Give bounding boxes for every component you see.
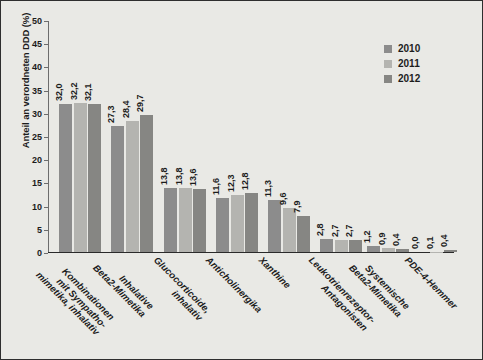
legend-label: 2011 xyxy=(398,59,420,69)
bar[interactable] xyxy=(396,249,409,252)
bar-group: 27,328,429,7 xyxy=(111,21,153,252)
bar[interactable] xyxy=(367,246,380,252)
y-tick-label: 35 xyxy=(14,86,42,95)
bar-value-label: 13,6 xyxy=(189,169,198,187)
bar-value-label: 0,9 xyxy=(377,232,386,245)
bar[interactable] xyxy=(140,115,153,252)
bar-value-label: 0,1 xyxy=(425,236,434,249)
x-axis-label-line: Xanthine xyxy=(257,255,293,291)
bar-value-label: 27,3 xyxy=(107,105,116,123)
chart-legend: 201020112012 xyxy=(384,41,454,86)
bar[interactable] xyxy=(59,104,72,252)
bar-value-label: 2,8 xyxy=(316,224,325,237)
bar-group: 32,032,232,1 xyxy=(59,21,101,252)
x-axis-labels: Kombinationenmit Sympatho-mimetika, inha… xyxy=(48,255,468,360)
bar[interactable] xyxy=(335,240,348,252)
bar-value-label: 0,4 xyxy=(440,235,449,248)
y-tick-mark xyxy=(44,44,48,45)
bar-group: 2,82,72,7 xyxy=(320,21,362,252)
bar[interactable] xyxy=(320,239,333,252)
legend-label: 2012 xyxy=(398,74,420,84)
bar-value-label: 32,2 xyxy=(69,83,78,101)
y-tick-label: 10 xyxy=(14,202,42,211)
bar[interactable] xyxy=(444,250,457,252)
legend-label: 2010 xyxy=(398,44,420,54)
y-tick-label: 40 xyxy=(14,63,42,72)
bar[interactable] xyxy=(164,188,177,252)
y-tick-mark xyxy=(44,21,48,22)
bar[interactable] xyxy=(245,193,258,252)
x-axis-label: Xanthine xyxy=(257,255,293,291)
legend-swatch-icon xyxy=(384,60,392,68)
bar-group: 11,39,67,9 xyxy=(268,21,310,252)
x-axis-line xyxy=(48,252,454,253)
legend-swatch-icon xyxy=(384,45,392,53)
bar-value-label: 2,7 xyxy=(345,224,354,237)
y-tick-mark xyxy=(44,230,48,231)
y-tick-mark xyxy=(44,137,48,138)
legend-item[interactable]: 2012 xyxy=(384,71,454,86)
y-tick-label: 30 xyxy=(14,109,42,118)
bar[interactable] xyxy=(297,216,310,252)
bar-group: 11,612,312,8 xyxy=(216,21,258,252)
y-tick-mark xyxy=(44,91,48,92)
bar[interactable] xyxy=(74,103,87,252)
y-tick-label: 25 xyxy=(14,133,42,142)
bar-value-label: 9,6 xyxy=(278,192,287,205)
y-tick-label: 5 xyxy=(14,225,42,234)
bar[interactable] xyxy=(126,121,139,252)
bar-value-label: 12,3 xyxy=(226,175,235,193)
chart-figure: Anteil an verordneten DDD (%) 0510152025… xyxy=(0,0,483,360)
bar-value-label: 1,2 xyxy=(363,231,372,244)
x-axis-label-line: Anticholinergika xyxy=(204,255,264,315)
y-tick-mark xyxy=(44,160,48,161)
bar[interactable] xyxy=(349,240,362,252)
y-tick-mark xyxy=(44,207,48,208)
bar-value-label: 11,3 xyxy=(264,180,273,197)
y-tick-label: 0 xyxy=(14,249,42,258)
bar-value-label: 32,0 xyxy=(55,84,64,102)
legend-item[interactable]: 2010 xyxy=(384,41,454,56)
y-tick-label: 45 xyxy=(14,40,42,49)
bar[interactable] xyxy=(216,198,229,252)
bar-value-label: 13,8 xyxy=(160,168,169,186)
bar-group: 13,813,813,6 xyxy=(164,21,206,252)
bar-value-label: 29,7 xyxy=(136,94,145,112)
bar-value-label: 32,1 xyxy=(84,83,93,101)
bar-value-label: 0,4 xyxy=(392,233,401,246)
bar[interactable] xyxy=(382,248,395,252)
y-tick-label: 20 xyxy=(14,156,42,165)
legend-item[interactable]: 2011 xyxy=(384,56,454,71)
bar[interactable] xyxy=(88,104,101,252)
bar-value-label: 28,4 xyxy=(121,100,130,118)
bar-value-label: 0,0 xyxy=(411,236,420,249)
bar[interactable] xyxy=(179,188,192,252)
y-tick-mark xyxy=(44,253,48,254)
x-axis-label: Anticholinergika xyxy=(204,255,264,315)
x-axis-label: Glucocorticoide,inhalativ xyxy=(144,255,212,323)
bar[interactable] xyxy=(268,200,281,252)
y-tick-label: 15 xyxy=(14,179,42,188)
legend-swatch-icon xyxy=(384,75,392,83)
bar[interactable] xyxy=(283,208,296,252)
y-tick-label: 50 xyxy=(14,17,42,26)
bar[interactable] xyxy=(111,126,124,252)
y-tick-mark xyxy=(44,67,48,68)
bar-value-label: 2,7 xyxy=(330,224,339,237)
bar[interactable] xyxy=(193,189,206,252)
bar[interactable] xyxy=(231,195,244,252)
bar-value-label: 13,8 xyxy=(174,168,183,186)
y-tick-mark xyxy=(44,183,48,184)
bar-value-label: 12,8 xyxy=(241,172,250,190)
y-tick-mark xyxy=(44,114,48,115)
bar-value-label: 11,6 xyxy=(212,178,221,195)
bar-value-label: 7,9 xyxy=(293,200,302,213)
